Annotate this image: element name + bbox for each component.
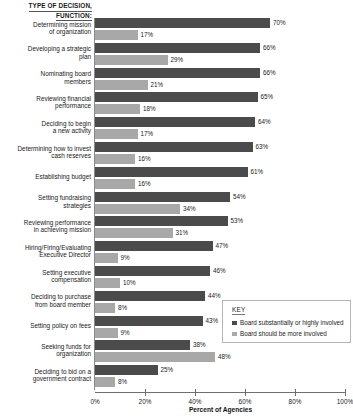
bar-value-label: 9% (121, 328, 130, 338)
bar-value-label: 43% (206, 316, 219, 326)
category-label-line: cash reserves (3, 152, 91, 160)
category-label: Developing a strategicplan (3, 45, 91, 60)
category-label-line: of organization (3, 28, 91, 36)
bar-value-label: 16% (138, 179, 151, 189)
value-axis-line (95, 392, 346, 393)
bar-value-label: 9% (121, 253, 130, 263)
category-label-line: Setting executive (3, 269, 91, 277)
category-label-line: strategies (3, 202, 91, 210)
category-label-line: Determining how to invest (3, 145, 91, 153)
category-label-line: plan (3, 53, 91, 61)
bar-involved (95, 117, 255, 127)
category-label: Reviewing performancein achieving missio… (3, 219, 91, 234)
category-label-line: Setting policy on fees (3, 322, 91, 330)
category-label-line: Establishing budget (3, 173, 91, 181)
bar-involved (95, 316, 203, 326)
category-label: Setting policy on fees (3, 322, 91, 330)
category-label: Establishing budget (3, 173, 91, 181)
bar-value-label: 66% (263, 43, 276, 53)
bar-involved (95, 18, 270, 28)
bar-value-label: 10% (123, 278, 136, 288)
axis-tick (345, 389, 346, 396)
category-label: Nominating boardmembers (3, 70, 91, 85)
bar-value-label: 53% (231, 216, 244, 226)
legend-swatch-dark (232, 321, 237, 326)
axis-tick (245, 389, 246, 396)
bar-involved (95, 92, 258, 102)
axis-tick-label: 0% (90, 398, 99, 405)
bar-should-be-more (95, 30, 138, 40)
bar-involved (95, 365, 158, 375)
bar-value-label: 8% (118, 303, 127, 313)
bar-involved (95, 167, 248, 177)
bar-value-label: 17% (141, 129, 154, 139)
axis-tick (145, 389, 146, 396)
category-label: Hiring/Firing/EvaluatingExecutive Direct… (3, 244, 91, 259)
bar-involved (95, 241, 213, 251)
category-label: Deciding to begina new activity (3, 120, 91, 135)
bar-should-be-more (95, 55, 168, 65)
category-label-line: Reviewing performance (3, 219, 91, 227)
category-label-line: a new activity (3, 127, 91, 135)
axis-tick-label: 60% (239, 398, 252, 405)
category-label-line: organization (3, 350, 91, 358)
bar-value-label: 70% (273, 18, 286, 28)
axis-tick-label: 40% (189, 398, 202, 405)
axis-tick (295, 389, 296, 396)
legend-label-light: Board should be more involved (240, 330, 327, 337)
bar-involved (95, 142, 253, 152)
category-label: Deciding to purchasefrom board member (3, 293, 91, 308)
category-label-line: Reviewing financial (3, 95, 91, 103)
value-axis-title: Percent of Agencies (95, 406, 346, 413)
category-label-line: Developing a strategic (3, 45, 91, 53)
bar-value-label: 16% (138, 154, 151, 164)
bar-should-be-more (95, 278, 120, 288)
axis-tick-label: 80% (289, 398, 302, 405)
bar-involved (95, 43, 260, 53)
bar-value-label: 54% (233, 192, 246, 202)
category-label-line: Nominating board (3, 70, 91, 78)
bar-value-label: 46% (213, 266, 226, 276)
bar-should-be-more (95, 303, 115, 313)
bar-should-be-more (95, 328, 118, 338)
bar-should-be-more (95, 228, 173, 238)
category-label-line: Deciding to begin (3, 120, 91, 128)
legend-item-board-involved: Board substantially or highly involved (232, 319, 344, 327)
bar-involved (95, 291, 205, 301)
category-label-line: from board member (3, 301, 91, 309)
bar-value-label: 63% (256, 142, 269, 152)
bar-should-be-more (95, 179, 135, 189)
legend-item-should-be-more-involved: Board should be more involved (232, 330, 327, 338)
category-label-line: compensation (3, 276, 91, 284)
category-label: Setting fundraisingstrategies (3, 194, 91, 209)
bar-value-label: 18% (143, 104, 156, 114)
axis-tick (195, 389, 196, 396)
bar-involved (95, 340, 190, 350)
bar-should-be-more (95, 377, 115, 387)
category-label: Seeking funds fororganization (3, 343, 91, 358)
category-label-line: members (3, 78, 91, 86)
category-label-line: Determining mission (3, 21, 91, 29)
category-label-line: Setting fundraising (3, 194, 91, 202)
category-label: Reviewing financialperformance (3, 95, 91, 110)
bar-value-label: 31% (176, 228, 189, 238)
bar-should-be-more (95, 253, 118, 263)
category-label-line: Seeking funds for (3, 343, 91, 351)
legend-label-dark: Board substantially or highly involved (240, 319, 344, 326)
bar-value-label: 8% (118, 377, 127, 387)
bar-value-label: 29% (171, 55, 184, 65)
bar-involved (95, 266, 210, 276)
bar-value-label: 25% (161, 365, 174, 375)
category-label-line: Hiring/Firing/Evaluating (3, 244, 91, 252)
bar-should-be-more (95, 80, 148, 90)
bar-value-label: 61% (251, 167, 264, 177)
bar-value-label: 44% (208, 291, 221, 301)
bar-value-label: 17% (141, 30, 154, 40)
bar-should-be-more (95, 352, 215, 362)
category-label-line: in achieving mission (3, 226, 91, 234)
bar-value-label: 34% (183, 204, 196, 214)
bar-value-label: 48% (218, 352, 231, 362)
axis-tick-label: 100% (337, 398, 353, 405)
category-label: Determining how to investcash reserves (3, 145, 91, 160)
category-label-line: Deciding to purchase (3, 293, 91, 301)
